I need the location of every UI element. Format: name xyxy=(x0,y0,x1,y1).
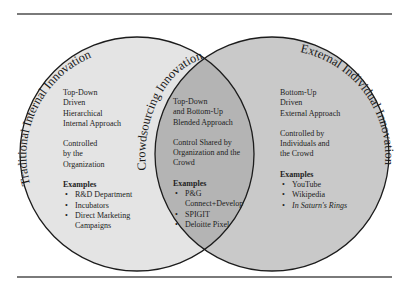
list-item: In Saturn's Rings xyxy=(280,201,370,211)
right-examples-title: Examples xyxy=(280,170,370,180)
list-item: Wikipedia xyxy=(280,190,370,200)
overlap-examples-title: Examples xyxy=(173,179,263,189)
list-item: Deloitte Pixel xyxy=(173,220,263,230)
list-item: Incubators xyxy=(63,201,143,211)
left-content: Top-Down Driven Hierarchical Internal Ap… xyxy=(63,88,143,232)
list-item: R&D Department xyxy=(63,190,143,200)
list-item: Direct MarketingCampaigns xyxy=(63,211,143,232)
right-approach-line: Driven xyxy=(280,98,370,108)
left-examples-list: R&D Department Incubators Direct Marketi… xyxy=(63,190,143,231)
list-item: SPIGIT xyxy=(173,210,263,220)
overlap-content: Top-Down and Bottom-Up Blended Approach … xyxy=(173,97,263,230)
right-approach-line: Bottom-Up xyxy=(280,88,370,98)
list-item: P&GConnect+Develop xyxy=(173,189,263,210)
overlap-approach-line: and Bottom-Up xyxy=(173,107,263,117)
right-control-line: Controlled by xyxy=(280,129,370,139)
left-approach-line: Driven xyxy=(63,98,143,108)
left-control-line: by the xyxy=(63,149,143,159)
left-approach-line: Top-Down xyxy=(63,88,143,98)
left-approach-line: Internal Approach xyxy=(63,119,143,129)
overlap-examples-list: P&GConnect+Develop SPIGIT Deloitte Pixel xyxy=(173,189,263,230)
right-content: Bottom-Up Driven External Approach Contr… xyxy=(280,88,370,211)
overlap-approach-line: Top-Down xyxy=(173,97,263,107)
overlap-approach-line: Blended Approach xyxy=(173,118,263,128)
left-control-line: Controlled xyxy=(63,139,143,149)
left-control-line: Organization xyxy=(63,160,143,170)
list-item: YouTube xyxy=(280,180,370,190)
overlap-control-line: Control Shared by xyxy=(173,138,263,148)
right-control-line: Individuals and xyxy=(280,139,370,149)
right-control-line: the Crowd xyxy=(280,149,370,159)
overlap-control-line: Crowd xyxy=(173,158,263,168)
left-approach-line: Hierarchical xyxy=(63,109,143,119)
overlap-control-line: Organization and the xyxy=(173,148,263,158)
right-approach-line: External Approach xyxy=(280,109,370,119)
right-examples-list: YouTube Wikipedia In Saturn's Rings xyxy=(280,180,370,211)
left-examples-title: Examples xyxy=(63,180,143,190)
